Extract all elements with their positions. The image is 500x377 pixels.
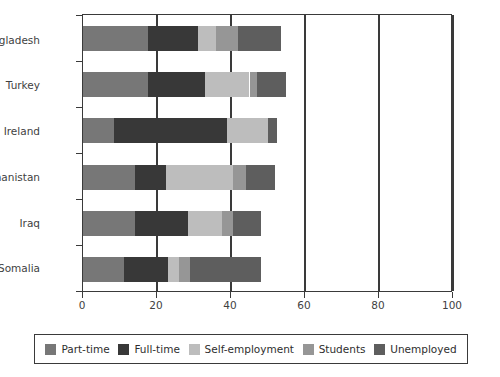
legend-swatch-icon — [189, 344, 200, 355]
bar-segment — [222, 211, 233, 236]
gridline — [378, 15, 379, 291]
bar-segment — [227, 118, 268, 143]
y-axis-label-3: Afghanistan — [0, 171, 40, 183]
plot-inner — [83, 15, 451, 291]
y-axis-label-1: Turkey — [0, 79, 40, 91]
x-axis-tick — [304, 292, 305, 298]
x-axis-label-3: 60 — [284, 299, 324, 311]
bar-segment — [83, 165, 135, 190]
gridline — [304, 15, 305, 291]
plot-area — [82, 14, 452, 292]
x-axis-label-2: 40 — [210, 299, 250, 311]
x-axis-label-0: 0 — [62, 299, 102, 311]
legend-label: Part-time — [61, 343, 109, 355]
x-axis-tick — [156, 292, 157, 298]
bar-group — [83, 26, 453, 51]
legend-swatch-icon — [374, 344, 385, 355]
gridline — [452, 15, 453, 291]
legend-label: Students — [319, 343, 366, 355]
bar-segment — [250, 72, 257, 97]
bar-segment — [148, 26, 198, 51]
bar-segment — [198, 26, 217, 51]
bar-segment — [135, 211, 189, 236]
x-axis-label-4: 80 — [358, 299, 398, 311]
bar-segment — [190, 257, 260, 282]
y-axis-label-4: Iraq — [0, 217, 40, 229]
bar-segment — [233, 211, 261, 236]
bar-segment — [238, 26, 281, 51]
bar-segment — [83, 72, 148, 97]
chart-legend: Part-timeFull-timeSelf-employmentStudent… — [34, 334, 468, 364]
legend-label: Unemployed — [390, 343, 456, 355]
bar-segment — [216, 26, 238, 51]
bar-group — [83, 72, 453, 97]
legend-item-2[interactable]: Self-employment — [189, 343, 294, 355]
legend-label: Full-time — [134, 343, 179, 355]
y-axis-label-2: Ireland — [0, 125, 40, 137]
legend-item-4[interactable]: Unemployed — [374, 343, 456, 355]
gridline — [230, 15, 231, 291]
x-axis-tick — [82, 292, 83, 298]
bar-segment — [168, 257, 179, 282]
x-axis-tick — [378, 292, 379, 298]
bar-segment — [114, 118, 227, 143]
legend-item-0[interactable]: Part-time — [45, 343, 109, 355]
bar-segment — [83, 26, 148, 51]
x-axis-label-5: 100 — [432, 299, 472, 311]
bar-segment — [148, 72, 205, 97]
bar-segment — [83, 211, 135, 236]
legend-label: Self-employment — [205, 343, 294, 355]
bar-segment — [268, 118, 277, 143]
bar-segment — [179, 257, 190, 282]
legend-item-1[interactable]: Full-time — [118, 343, 179, 355]
legend-swatch-icon — [118, 344, 129, 355]
bar-segment — [83, 257, 124, 282]
bar-segment — [205, 72, 249, 97]
bar-segment — [257, 72, 287, 97]
bar-segment — [135, 165, 166, 190]
legend-swatch-icon — [303, 344, 314, 355]
bar-segment — [233, 165, 246, 190]
bar-segment — [188, 211, 221, 236]
x-axis-tick — [452, 292, 453, 298]
bar-segment — [83, 118, 114, 143]
x-axis-tick — [230, 292, 231, 298]
stacked-bar-chart: Bangladesh Turkey Ireland Afghanistan Ir… — [0, 0, 500, 377]
bar-group — [83, 211, 453, 236]
legend-item-3[interactable]: Students — [303, 343, 366, 355]
bar-segment — [124, 257, 168, 282]
legend-swatch-icon — [45, 344, 56, 355]
bar-group — [83, 118, 453, 143]
bar-group — [83, 257, 453, 282]
bar-segment — [246, 165, 276, 190]
y-axis-label-0: Bangladesh — [0, 34, 40, 46]
x-axis-label-1: 20 — [136, 299, 176, 311]
y-axis-label-5: Somalia — [0, 262, 40, 274]
bar-segment — [166, 165, 233, 190]
gridline — [156, 15, 157, 291]
bar-group — [83, 165, 453, 190]
